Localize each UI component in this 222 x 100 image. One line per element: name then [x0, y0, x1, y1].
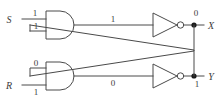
top-and-gate-body	[46, 11, 74, 39]
circuit-canvas: S 1 1 1 0 X 0 R 1 0 1 Y	[0, 0, 222, 100]
wire-x-feedback-to-bottom-and	[30, 25, 194, 76]
s-input-value: 1	[33, 8, 38, 18]
y-output-value: 1	[195, 79, 200, 89]
bottom-not-bubble-icon	[177, 73, 183, 79]
x-output-value: 0	[194, 8, 199, 18]
wire-y-feedback-to-top-and	[30, 25, 194, 76]
top-and-output-value: 1	[111, 14, 116, 24]
r-input-label: R	[5, 80, 12, 91]
r-input-value: 1	[34, 87, 39, 97]
y-output-label: Y	[208, 71, 215, 82]
s-input-label: S	[7, 14, 12, 25]
top-and-feedback-value: 1	[34, 21, 39, 31]
bottom-and-output-value: 0	[111, 78, 116, 88]
logic-circuit-diagram: S 1 1 1 0 X 0 R 1 0 1 Y	[0, 0, 222, 100]
bottom-and-feedback-value: 0	[34, 58, 39, 68]
bottom-and-gate-body	[46, 62, 74, 90]
x-output-label: X	[207, 20, 215, 31]
bottom-not-gate-body	[153, 64, 177, 88]
top-not-bubble-icon	[177, 22, 183, 28]
top-not-gate-body	[153, 13, 177, 37]
